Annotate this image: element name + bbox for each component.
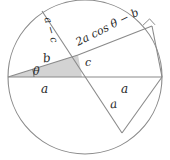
- label-theta: θ: [33, 66, 40, 77]
- geometry-figure: a a a b c a − c 2a cos θ − b θ: [0, 0, 170, 160]
- label-c: c: [85, 57, 91, 68]
- label-b: b: [42, 52, 51, 65]
- label-a-lower-chord: a: [109, 98, 118, 111]
- right-angle-marker: [143, 19, 155, 25]
- right-angle-marker-inner: [149, 19, 150, 27]
- figure-canvas: [0, 0, 170, 160]
- right-leg-chord: [152, 26, 162, 77]
- label-a-right: a: [121, 83, 128, 95]
- label-a-left: a: [41, 83, 48, 95]
